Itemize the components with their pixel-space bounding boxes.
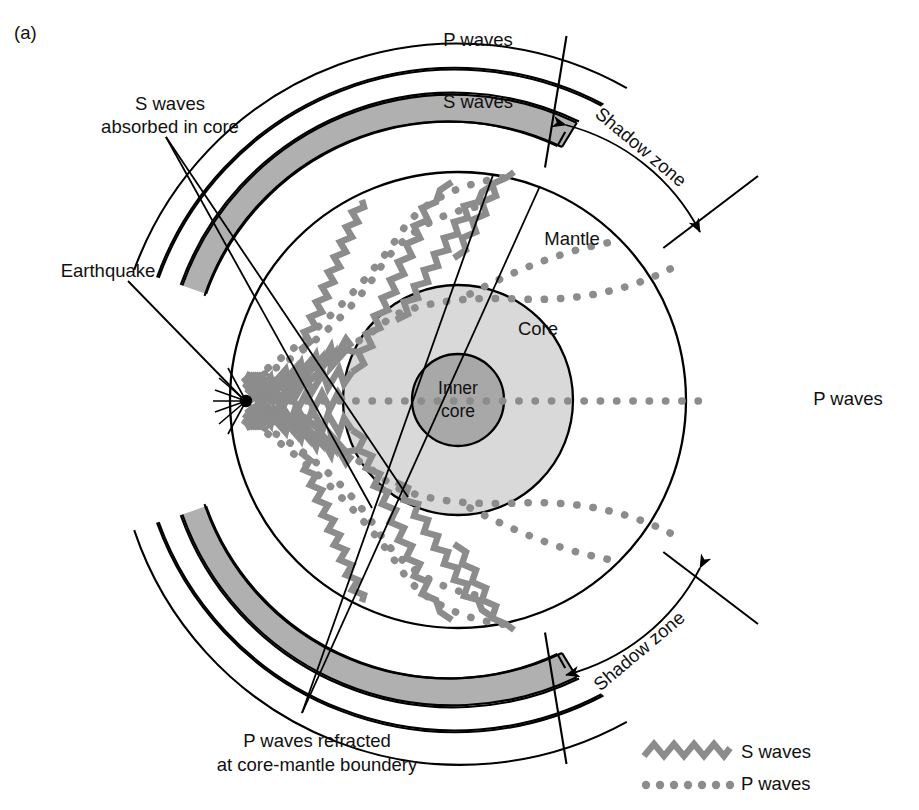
earthquake-label: Earthquake xyxy=(61,260,156,281)
s-waves-absorbed-label-line1: S waves xyxy=(135,93,205,114)
seismic-shadow-zone-figure: (a) P waves S waves P waves S waves abso… xyxy=(0,0,919,810)
mantle-label: Mantle xyxy=(544,228,600,249)
legend-s-waves-label: S waves xyxy=(741,741,811,762)
p-waves-right-label: P waves xyxy=(813,388,883,409)
legend-p-waves-label: P waves xyxy=(741,773,811,794)
p-refracted-label-line1: P waves refracted xyxy=(243,730,391,751)
p-refracted-label-line2: at core-mantle boundery xyxy=(217,754,418,775)
s-waves-absorbed-label-line2: absorbed in core xyxy=(101,116,239,137)
inner-core-label-line1: Inner xyxy=(438,378,478,398)
p-waves-top-label: P waves xyxy=(443,29,513,50)
panel-tag: (a) xyxy=(14,22,37,43)
diagram-canvas: (a) P waves S waves P waves S waves abso… xyxy=(0,0,919,810)
s-waves-top-label: S waves xyxy=(443,91,513,112)
inner-core-label-line2: core xyxy=(441,401,475,421)
core-label: Core xyxy=(518,318,558,339)
